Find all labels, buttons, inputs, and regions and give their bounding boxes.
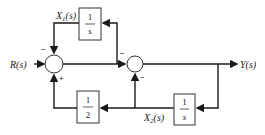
sum2-bottom-sign: − — [140, 73, 145, 82]
input-label: R(s) — [9, 59, 27, 71]
bottom-feedback-in — [197, 64, 218, 108]
sum1-bottom-sign: + — [59, 74, 64, 83]
sum2-left-sign: − — [120, 49, 125, 58]
x1-label: X1(s) — [55, 10, 77, 23]
sum1-top-sign: − — [41, 45, 46, 54]
summing-junction-1 — [45, 55, 63, 73]
gain-block-numerator: 1 — [86, 95, 91, 105]
bottom-block-numerator: 1 — [182, 97, 187, 107]
top-feedback-in — [103, 23, 117, 64]
summing-junction-2 — [127, 56, 143, 72]
gain-block-denominator: 2 — [86, 110, 91, 120]
top-block-denominator: s — [88, 26, 92, 36]
top-block-numerator: 1 — [88, 12, 93, 22]
top-feedback-out — [54, 23, 79, 53]
block-diagram: − + − − 1 s 1 2 1 s R(s) Y(s) X1(s) X2(s… — [0, 0, 265, 135]
output-label: Y(s) — [240, 59, 257, 71]
gain-to-sum1-arrow — [54, 75, 77, 108]
x2-label: X2(s) — [143, 112, 165, 125]
bottom-block-denominator: s — [183, 112, 187, 122]
